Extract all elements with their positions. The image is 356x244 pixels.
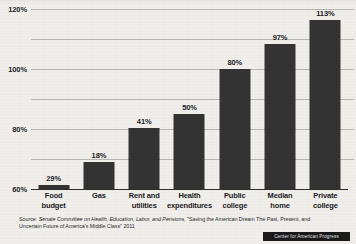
bar [310,20,341,190]
category-label-line: Gas [76,191,121,201]
x-axis-category-labels: FoodbudgetGasRent andutilitiesHealthexpe… [31,191,348,215]
bar-value-label: 18% [92,151,107,160]
bars-group: 29%18%41%50%80%97%113% [31,9,348,189]
bar [38,185,69,190]
bar-slot: 50% [167,9,212,189]
x-axis-category-label: Healthexpenditures [167,191,212,210]
x-axis-category-label: Publiccollege [212,191,257,210]
y-axis-right-tick [348,129,354,130]
bar-slot: 97% [257,9,302,189]
category-label-line: budget [31,201,76,211]
cap-logo-text: Center for American Progress [274,234,339,239]
x-axis-category-label: Gas [76,191,121,201]
category-label-line: Median [257,191,302,201]
bar-slot: 41% [122,9,167,189]
y-axis-right-tick [348,159,354,160]
cap-logo-badge: Center for American Progress [263,232,350,241]
x-axis-category-label: Rent andutilities [122,191,167,210]
y-axis-right-tick [348,69,354,70]
category-label-line: expenditures [167,201,212,211]
y-axis-tick-label: 120% [8,5,27,14]
bar-slot: 29% [31,9,76,189]
category-label-line: Rent and [122,191,167,201]
y-axis-tick-label: 80% [12,125,27,134]
x-axis-category-label: Foodbudget [31,191,76,210]
x-axis-category-label: Medianhome [257,191,302,210]
bar [265,44,296,190]
y-axis-right-tick [348,9,354,10]
y-axis-tick-label: 100% [8,65,27,74]
bar-value-label: 80% [227,58,242,67]
bar-value-label: 41% [137,117,152,126]
x-axis-category-label: Privatecollege [303,191,348,210]
source-organization: Senate Committee on Health, Education, L… [39,216,186,222]
source-label: Source: [19,216,37,222]
bar [174,114,205,189]
source-note: Source: Senate Committee on Health, Educ… [19,216,319,230]
category-label-line: home [257,201,302,211]
bar-chart-figure: 020%40%60%80%100%120% 29%18%41%50%80%97%… [0,0,356,244]
top-crop-artifact [0,0,356,5]
bar [219,69,250,189]
category-label-line: college [303,201,348,211]
category-label-line: Private [303,191,348,201]
bar-value-label: 113% [316,9,334,18]
y-axis-right-tick [348,99,354,100]
axis-baseline: 0 [31,189,348,190]
bar [83,162,114,189]
bar-slot: 18% [76,9,121,189]
y-axis-tick-label: 60% [12,185,27,194]
bar-value-label: 29% [46,174,61,183]
category-label-line: Food [31,191,76,201]
plot-area: 020%40%60%80%100%120% 29%18%41%50%80%97%… [31,9,348,189]
category-label-line: Health [167,191,212,201]
bar-slot: 113% [303,9,348,189]
category-label-line: utilities [122,201,167,211]
bar [129,128,160,190]
category-label-line: Public [212,191,257,201]
category-label-line: college [212,201,257,211]
y-axis-right-tick [348,39,354,40]
bar-value-label: 50% [182,103,197,112]
bar-value-label: 97% [273,33,288,42]
bar-slot: 80% [212,9,257,189]
